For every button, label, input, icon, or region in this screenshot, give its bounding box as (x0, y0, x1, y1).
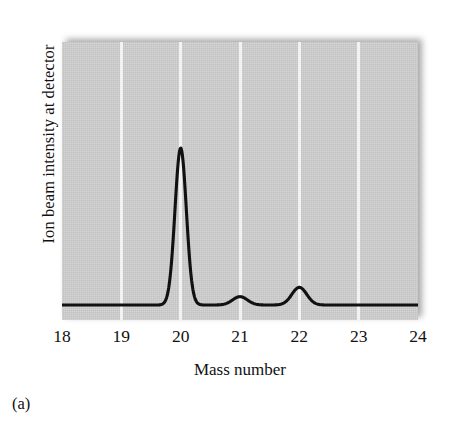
x-tick-label-19: 19 (101, 326, 141, 347)
x-tick-label-23: 23 (339, 326, 379, 347)
figure-caption: (a) (12, 394, 30, 414)
x-tick-label-24: 24 (398, 326, 438, 347)
x-axis-title: Mass number (62, 360, 418, 380)
x-tick-label-18: 18 (42, 326, 82, 347)
y-axis-title: Ion beam intensity at detector (39, 0, 59, 289)
spectrum-curve (62, 42, 418, 320)
mass-spectrum-figure: Ion beam intensity at detector 181920212… (0, 0, 452, 426)
x-tick-label-21: 21 (220, 326, 260, 347)
x-tick-label-20: 20 (161, 326, 201, 347)
plot-area (62, 42, 418, 320)
x-tick-label-22: 22 (279, 326, 319, 347)
